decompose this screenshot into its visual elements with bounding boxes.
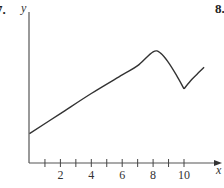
x-tick-label: 6	[119, 168, 125, 183]
data-curve	[30, 51, 205, 134]
x-tick-label: 2	[57, 168, 63, 183]
x-tick-label: 8	[150, 168, 156, 183]
line-chart	[0, 0, 224, 188]
x-axis-arrow-icon	[214, 160, 222, 166]
x-tick-label: 4	[88, 168, 94, 183]
x-tick-label: 10	[178, 168, 190, 183]
